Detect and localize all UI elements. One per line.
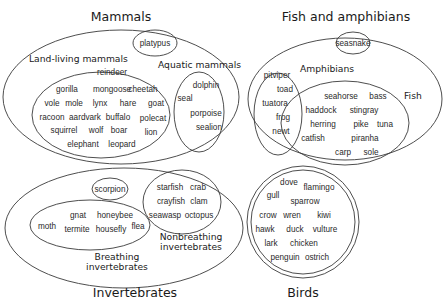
list-item: porpoise	[190, 109, 222, 118]
list-item: cheetah	[128, 85, 158, 94]
list-item: duck	[286, 225, 304, 234]
list-item: gorilla	[56, 85, 78, 94]
list-item: dove	[280, 178, 298, 187]
list-item: vulture	[313, 225, 338, 234]
item-scorpion: scorpion	[95, 185, 126, 194]
list-item: flamingo	[304, 183, 335, 192]
group-invertebrates: Invertebrates scorpion moth gnat honeybe…	[5, 168, 243, 300]
list-item: piranha	[351, 134, 379, 143]
list-item: clam	[190, 197, 207, 206]
fish-items: seahorse bass haddock stingray herring p…	[301, 92, 393, 157]
list-item: vole	[44, 99, 59, 108]
list-item: gull	[267, 191, 280, 200]
list-item: honeybee	[97, 211, 133, 220]
group-mammals: Mammals platypus Land-living mammals rei…	[3, 9, 241, 164]
list-item: penguin	[270, 253, 300, 262]
item-seasnake: seasnake	[335, 39, 370, 48]
label-breathing-line2: invertebrates	[86, 261, 148, 272]
list-item: mole	[65, 99, 83, 108]
list-item: pitviper	[264, 71, 291, 80]
list-item: catfish	[301, 134, 325, 143]
list-item: chicken	[290, 239, 318, 248]
label-nonbreathing-line2: invertebrates	[160, 241, 222, 252]
list-item: ostrich	[305, 253, 330, 262]
list-item: sparrow	[290, 197, 319, 206]
list-item: octopus	[185, 211, 214, 220]
title-invertebrates: Invertebrates	[93, 285, 177, 300]
item-platypus: platypus	[140, 39, 171, 48]
list-item: carp	[335, 148, 351, 157]
list-item: hare	[120, 99, 137, 108]
list-item: squirrel	[51, 126, 78, 135]
list-item: sealion	[196, 123, 222, 132]
list-item: stingray	[350, 106, 380, 115]
list-item: aardvark	[69, 113, 102, 122]
list-item: lion	[145, 128, 158, 137]
list-item: wren	[282, 211, 301, 220]
amphibian-items: pitviper toad tuatora frog newt	[262, 71, 293, 136]
list-item: seahorse	[324, 92, 358, 101]
label-fish: Fish	[404, 90, 422, 101]
list-item: flea	[131, 222, 145, 231]
list-item: gnat	[70, 211, 87, 220]
group-fish-amphibians: Fish and amphibians seasnake Amphibians …	[248, 9, 442, 165]
list-item: seawasp	[149, 211, 182, 220]
list-item: lark	[264, 239, 278, 248]
list-item: polecat	[140, 114, 167, 123]
list-item: kiwi	[317, 211, 331, 220]
group-birds: Birds dove flamingo gull sparrow crow wr…	[247, 166, 359, 300]
list-item: elephant	[67, 140, 99, 149]
list-item: bass	[369, 92, 386, 101]
aquatic-items: dolphin seal porpoise sealion	[177, 81, 222, 132]
list-item: seal	[177, 94, 192, 103]
list-item: dolphin	[193, 81, 220, 90]
list-item: crayfish	[157, 197, 186, 206]
nonbreathing-items: starfish crab crayfish clam seawasp octo…	[149, 183, 214, 220]
list-item: haddock	[306, 106, 338, 115]
list-item: termite	[64, 225, 89, 234]
list-item: housefly	[96, 225, 127, 234]
title-birds: Birds	[287, 285, 318, 300]
list-item: wolf	[88, 126, 104, 135]
list-item: herring	[310, 120, 336, 129]
label-aquatic-mammals: Aquatic mammals	[158, 59, 241, 70]
list-item: frog	[276, 113, 291, 122]
label-land-living-mammals: Land-living mammals	[29, 53, 128, 64]
title-mammals: Mammals	[91, 9, 151, 24]
list-item: crow	[259, 211, 276, 220]
list-item: sole	[363, 148, 378, 157]
venn-diagram: Mammals platypus Land-living mammals rei…	[0, 0, 444, 304]
list-item: moth	[38, 222, 57, 231]
label-amphibians: Amphibians	[300, 63, 354, 74]
bird-items: dove flamingo gull sparrow crow wren kiw…	[255, 178, 337, 262]
list-item: pike	[353, 120, 368, 129]
list-item: lynx	[93, 99, 108, 108]
list-item: goat	[148, 99, 165, 108]
list-item: tuna	[377, 120, 393, 129]
list-item: starfish	[157, 183, 184, 192]
list-item: boar	[111, 126, 128, 135]
list-item: crab	[190, 183, 206, 192]
land-living-items: reindeer gorilla mongoose cheetah vole m…	[39, 68, 166, 149]
title-fish-and-amphibians: Fish and amphibians	[282, 9, 410, 24]
list-item: toad	[277, 85, 293, 94]
list-item: leopard	[108, 140, 136, 149]
list-item: mongoose	[93, 85, 132, 94]
breathing-items: moth gnat honeybee termite housefly flea	[38, 211, 145, 234]
list-item: buffalo	[106, 113, 131, 122]
list-item: tuatora	[262, 99, 288, 108]
list-item: hawk	[255, 225, 275, 234]
list-item: reindeer	[97, 68, 127, 77]
list-item: racoon	[39, 113, 64, 122]
